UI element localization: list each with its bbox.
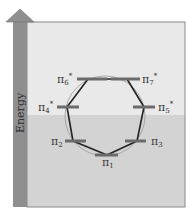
energy-axis-label: Energy [14, 92, 27, 133]
mo-diagram: Energy π1 π2 π3 π4* π5* π6* π7* [0, 0, 195, 212]
